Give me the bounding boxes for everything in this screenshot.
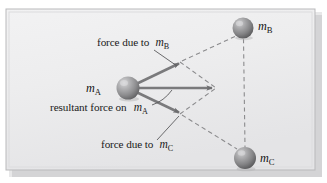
mC-specular-highlight <box>238 150 246 156</box>
annotation-force-due-to-mB-symbol: m <box>155 36 163 48</box>
annotation-force-due-to-mB-text: force due to <box>97 36 150 48</box>
annotation-force-due-to-mC-text: force due to <box>101 138 154 150</box>
mass-label-mB-symbol: m <box>258 19 267 33</box>
mass-label-mB-subscript: B <box>267 25 273 35</box>
mass-label-mA-symbol: m <box>86 81 95 95</box>
annotation-resultant-force-text: resultant force on <box>50 101 127 113</box>
annotation-force-due-to-mC-symbol: m <box>159 138 167 150</box>
mass-label-mC-subscript: C <box>269 157 275 167</box>
mass-label-mC-symbol: m <box>260 151 269 165</box>
annotation-force-due-to-mC-subscript: C <box>168 144 173 153</box>
physics-vector-diagram: force due to mB resultant force on mA fo… <box>0 0 327 183</box>
mass-label-mA-subscript: A <box>95 87 102 97</box>
annotation-resultant-force-symbol: m <box>134 101 142 113</box>
mB-specular-highlight <box>236 21 243 26</box>
mC-sphere-body <box>234 147 256 169</box>
annotation-resultant-force-subscript: A <box>142 107 148 116</box>
mA-specular-highlight <box>120 80 128 86</box>
annotation-force-due-to-mB-subscript: B <box>164 42 169 51</box>
mA-sphere-body <box>117 77 140 100</box>
mB-sphere-body <box>233 18 254 39</box>
figure-container: force due to mB resultant force on mA fo… <box>0 0 327 183</box>
